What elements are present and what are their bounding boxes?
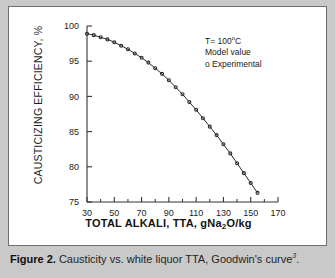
legend-experimental: o Experimental: [205, 59, 262, 71]
svg-text:95: 95: [69, 56, 79, 66]
svg-text:85: 85: [69, 127, 79, 137]
svg-text:75: 75: [69, 197, 79, 207]
x-axis-title: TOTAL ALKALI, TTA, gNa2O/kg: [9, 217, 328, 231]
legend-temperature: T= 100oC: [205, 33, 262, 47]
legend-model-value: Model value: [205, 47, 262, 59]
figure-caption-text: Causticity vs. white liquor TTA, Goodwin…: [59, 253, 292, 265]
svg-text:80: 80: [69, 162, 79, 172]
figure-panel: CAUSTICIZING EFFICIENCY, % 7580859095100…: [8, 6, 327, 246]
svg-text:100: 100: [64, 21, 79, 31]
figure-number: Figure 2.: [10, 253, 56, 265]
chart-legend: T= 100oC Model value o Experimental: [205, 33, 262, 70]
figure-caption: Figure 2. Causticity vs. white liquor TT…: [10, 252, 330, 265]
svg-text:90: 90: [69, 92, 79, 102]
x-axis-title-post: O/kg: [226, 217, 251, 229]
caption-period: .: [296, 253, 299, 265]
figure-page: CAUSTICIZING EFFICIENCY, % 7580859095100…: [0, 0, 335, 278]
chart-plot-area: 758085909510030507090110130150170: [9, 7, 328, 247]
legend-temperature-unit: C: [235, 36, 241, 46]
legend-temperature-value: T= 100: [205, 36, 232, 46]
x-axis-title-pre: TOTAL ALKALI, TTA, gNa: [85, 217, 221, 229]
